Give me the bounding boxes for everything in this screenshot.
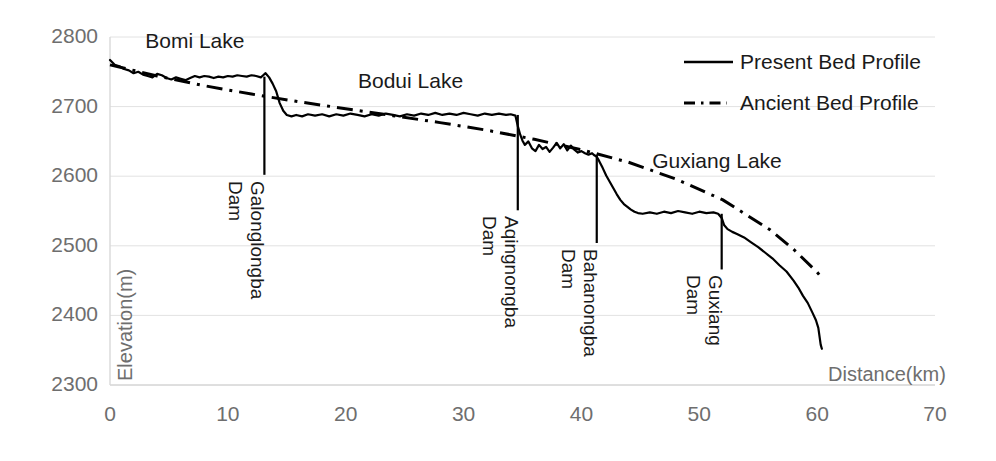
x-tick-label: 0 [80,402,140,426]
y-tick-label: 2400 [24,302,98,326]
dam-word-guxiang: Dam [682,275,704,315]
dam-label-galonglongba: Galonglongba [246,181,268,299]
dam-label-guxiang: Guxiang [704,275,726,346]
x-tick-label: 60 [787,402,847,426]
x-tick-label: 10 [198,402,258,426]
x-tick-label: 30 [434,402,494,426]
x-tick-label: 70 [905,402,965,426]
y-tick-label: 2800 [24,24,98,48]
y-tick-label: 2500 [24,233,98,257]
y-tick-label: 2300 [24,372,98,396]
lake-label-bodui: Bodui Lake [358,69,463,93]
legend-label-present: Present Bed Profile [740,50,921,74]
dam-label-aqingnongba: Aqingnongba [500,216,522,328]
x-tick-label: 50 [669,402,729,426]
x-tick-label: 20 [316,402,376,426]
lake-label-guxiang: Guxiang Lake [652,149,782,173]
dam-word-aqingnongba: Dam [478,216,500,256]
x-axis-title: Distance(km) [828,363,946,386]
chart-container: 2800 2700 2600 2500 2400 2300 0 10 20 30… [0,0,996,461]
dam-word-bahanongba: Dam [557,249,579,289]
legend-label-ancient: Ancient Bed Profile [740,91,919,115]
dam-word-galonglongba: Dam [224,181,246,221]
y-tick-label: 2700 [24,94,98,118]
y-tick-label: 2600 [24,163,98,187]
y-axis-title: Elevation(m) [114,269,137,381]
lake-label-bomi: Bomi Lake [145,29,244,53]
x-tick-label: 40 [551,402,611,426]
legend-line-samples [684,62,733,103]
dam-label-bahanongba: Bahanongba [579,249,601,357]
